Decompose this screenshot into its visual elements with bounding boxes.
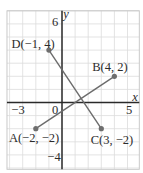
point-label-a: A(−2, −2)	[9, 131, 59, 145]
tick-label-x-5: 5	[126, 103, 132, 117]
y-axis-label: y	[61, 7, 69, 21]
tick-label-x-neg3: −3	[11, 103, 24, 117]
point-label-b: B(4, 2)	[92, 60, 127, 74]
point-b	[112, 74, 117, 79]
point-c	[99, 126, 104, 131]
x-axis-label: x	[131, 90, 138, 104]
point-label-d: D(−1, 4)	[11, 37, 54, 51]
tick-label-origin: 0	[52, 103, 58, 117]
tick-label-y-neg4: −4	[47, 150, 61, 164]
point-label-c: C(3, −2)	[91, 133, 133, 147]
coordinate-plane: x y −3 0 5 6 −4 A(−2, −2) B(4, 2) C(3, −…	[0, 0, 143, 173]
tick-label-y-6: 6	[52, 15, 58, 29]
